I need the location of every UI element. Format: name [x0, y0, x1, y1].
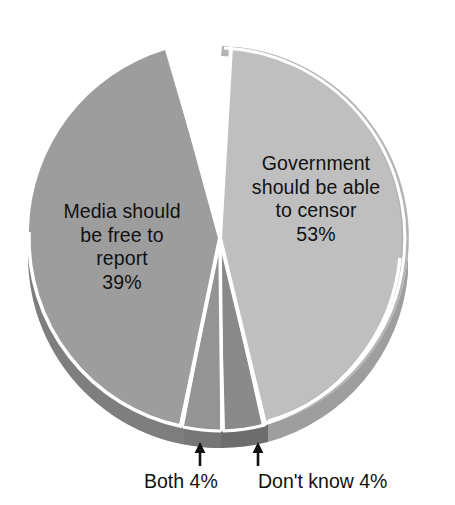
separator-both-dontknow [220, 238, 222, 430]
slice-label-media: Media should be free to report 39% [38, 200, 206, 294]
callout-label-dont-know: Don't know 4% [258, 470, 387, 493]
callout-label-both: Both 4% [144, 470, 218, 493]
slice-label-government: Government should be able to censor 53% [232, 152, 400, 246]
pie-chart: Government should be able to censor 53% … [0, 0, 455, 505]
up-arrow-icon-dont-know [253, 442, 264, 466]
